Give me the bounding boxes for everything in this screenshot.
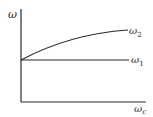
omega1-label: ω1 (131, 54, 144, 68)
omega2-label: ω2 (129, 25, 142, 39)
x-axis-label: ωc (134, 103, 146, 116)
y-axis-label: ω (8, 8, 17, 21)
omega2-curve (21, 30, 128, 60)
diagram-canvas: ω ω2 ω1 ωc (0, 0, 153, 117)
